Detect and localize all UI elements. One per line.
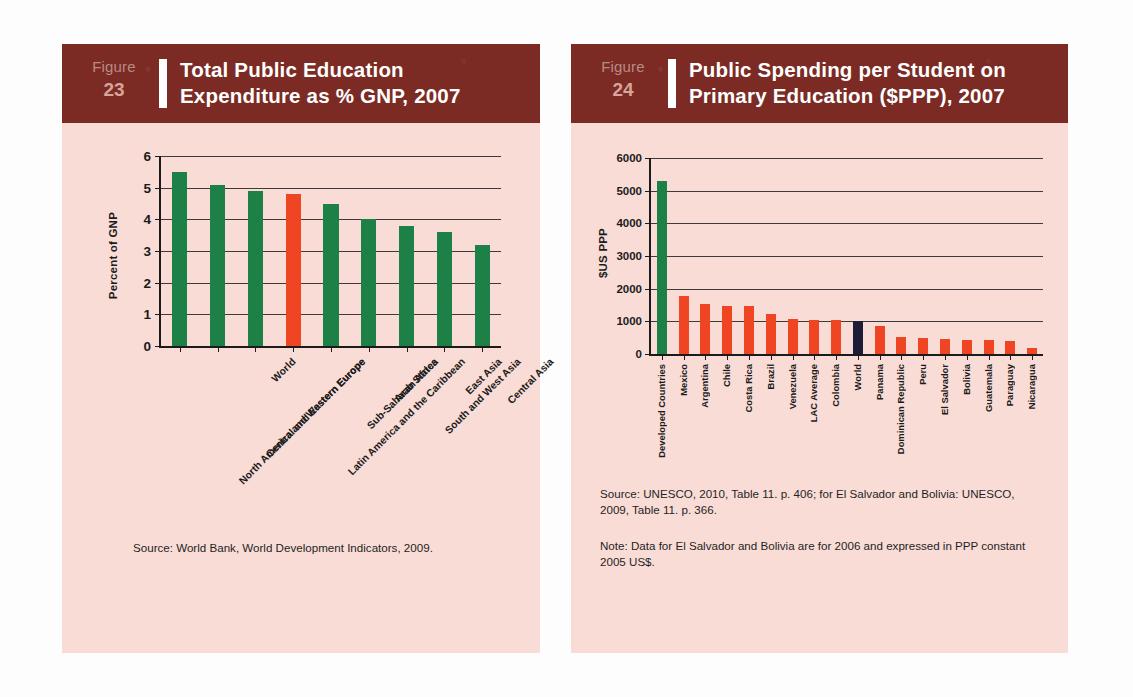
- header-divider-rule: [159, 59, 167, 108]
- figure-24-number-block: Figure 24: [587, 58, 659, 102]
- x-tick-mark: [218, 346, 219, 352]
- x-tick-label: Paraguay: [1004, 364, 1015, 406]
- y-axis-line: [649, 158, 651, 356]
- x-tick-label: Guatemala: [983, 364, 994, 412]
- x-tick-label: Peru: [917, 364, 928, 385]
- y-tick-label: 3: [111, 244, 151, 259]
- bar: [831, 320, 841, 354]
- chart-figure-23: Percent of GNP 0123456 North America and…: [107, 152, 517, 452]
- x-tick-mark: [369, 346, 370, 352]
- figure-24-title-line1: Public Spending per Student on: [689, 57, 1058, 83]
- x-tick-label: Brazil: [765, 364, 776, 390]
- x-tick-label: LAC Average: [808, 364, 819, 422]
- plot-area-left: 0123456: [161, 156, 501, 346]
- x-tick-mark: [482, 346, 483, 352]
- bar: [722, 306, 732, 354]
- x-tick-mark: [331, 346, 332, 352]
- y-tick-label: 5000: [596, 185, 642, 197]
- x-tick-mark: [662, 354, 663, 360]
- gridline: [651, 191, 1043, 192]
- bar: [918, 338, 928, 354]
- x-tick-mark: [407, 346, 408, 352]
- figure-number: 23: [78, 78, 150, 102]
- y-tick-label: 4: [111, 212, 151, 227]
- bar: [679, 296, 689, 354]
- y-tick-label: 0: [596, 348, 642, 360]
- bar: [809, 320, 819, 354]
- figure-24-title-line2: Primary Education ($PPP), 2007: [689, 83, 1058, 109]
- x-tick-label: Panama: [874, 364, 885, 400]
- bar: [744, 306, 754, 354]
- figure-23-header: Figure 23 Total Public Education Expendi…: [62, 44, 540, 123]
- x-tick-mark: [989, 354, 990, 360]
- x-tick-label: Bolivia: [961, 364, 972, 395]
- figure-label: Figure: [587, 58, 659, 75]
- x-tick-mark: [967, 354, 968, 360]
- bar: [1005, 341, 1015, 354]
- bar: [766, 314, 776, 354]
- y-tick-label: 6000: [596, 152, 642, 164]
- bar: [172, 172, 187, 346]
- bar: [361, 219, 376, 346]
- figure-23-title-line2: Expenditure as % GNP, 2007: [180, 83, 530, 109]
- x-tick-label: World: [852, 364, 863, 390]
- gridline: [161, 156, 501, 157]
- y-tick-label: 2: [111, 275, 151, 290]
- x-tick-mark: [684, 354, 685, 360]
- chart-figure-24: $US PPP 0100020003000400050006000 Develo…: [593, 154, 1053, 444]
- x-tick-mark: [880, 354, 881, 360]
- x-tick-mark: [793, 354, 794, 360]
- x-tick-mark: [180, 346, 181, 352]
- figure-23-source: Source: World Bank, World Development In…: [133, 540, 533, 556]
- x-tick-mark: [901, 354, 902, 360]
- x-tick-label: Developed Countries: [656, 364, 667, 458]
- bar: [248, 191, 263, 346]
- bar: [940, 339, 950, 354]
- bar: [323, 204, 338, 347]
- bar: [657, 181, 667, 354]
- bar: [984, 340, 994, 354]
- x-tick-label: El Salvador: [939, 364, 950, 415]
- bar: [962, 340, 972, 354]
- bar: [210, 185, 225, 347]
- y-tick-label: 6: [111, 149, 151, 164]
- x-tick-mark: [255, 346, 256, 352]
- bar: [437, 232, 452, 346]
- bar: [399, 226, 414, 346]
- y-tick-label: 1000: [596, 315, 642, 327]
- x-tick-label: Latin America and the Caribbean: [346, 356, 467, 477]
- x-tick-label: Argentina: [699, 364, 710, 408]
- figure-23-title: Total Public Education Expenditure as % …: [180, 57, 530, 109]
- x-tick-mark: [1010, 354, 1011, 360]
- figure-panel-24: Figure 24 Public Spending per Student on…: [571, 44, 1068, 653]
- x-tick-mark: [814, 354, 815, 360]
- figure-24-source: Source: UNESCO, 2010, Table 11. p. 406; …: [600, 486, 1040, 518]
- gridline: [651, 256, 1043, 257]
- x-tick-label: Chile: [721, 364, 732, 387]
- y-tick-label: 2000: [596, 283, 642, 295]
- figure-number: 24: [587, 78, 659, 102]
- figure-23-number-block: Figure 23: [78, 58, 150, 102]
- figure-sheet: Figure 23 Total Public Education Expendi…: [0, 0, 1133, 697]
- x-tick-mark: [1032, 354, 1033, 360]
- y-tick-label: 1: [111, 307, 151, 322]
- x-tick-label: Costa Rica: [743, 364, 754, 412]
- gridline: [651, 158, 1043, 159]
- x-tick-mark: [858, 354, 859, 360]
- y-tick-label: 4000: [596, 217, 642, 229]
- x-tick-mark: [836, 354, 837, 360]
- bar: [875, 326, 885, 354]
- header-divider-rule: [668, 59, 676, 108]
- figure-24-header: Figure 24 Public Spending per Student on…: [571, 44, 1068, 123]
- figure-label: Figure: [78, 58, 150, 75]
- x-tick-label: Mexico: [678, 364, 689, 396]
- figure-24-note: Note: Data for El Salvador and Bolivia a…: [600, 538, 1040, 570]
- x-tick-label: Dominican Republic: [895, 364, 906, 454]
- bar: [700, 304, 710, 354]
- plot-area-right: 0100020003000400050006000: [651, 158, 1043, 354]
- figure-23-title-line1: Total Public Education: [180, 57, 530, 83]
- gridline: [651, 223, 1043, 224]
- x-tick-mark: [727, 354, 728, 360]
- y-tick-label: 5: [111, 180, 151, 195]
- y-tick-label: 3000: [596, 250, 642, 262]
